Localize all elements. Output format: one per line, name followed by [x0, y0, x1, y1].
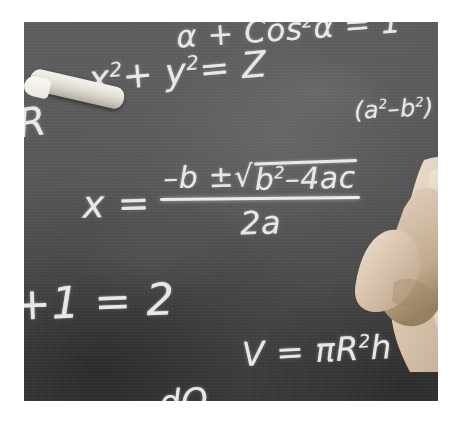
quadratic-numerator: –b ± √ b2–4ac	[159, 158, 360, 199]
equation-bottom-partial: dQ	[158, 382, 210, 401]
quadratic-denominator: 2a	[240, 206, 282, 239]
volume-tail: h	[369, 327, 392, 367]
chalkboard-photo: α + Cos2α = 1 x2+ y2= Z R (a2–b2) x = –b…	[24, 22, 438, 401]
radicand-tail: –4ac	[284, 159, 356, 196]
equation-plus-one-equals-two: +1 = 2	[24, 277, 175, 327]
quadratic-numerator-lead: –b ±	[163, 162, 234, 194]
quadratic-fraction: –b ± √ b2–4ac 2a	[159, 158, 361, 241]
equation-difference-of-squares: (a2–b2)	[353, 95, 434, 123]
volume-lhs: V = πR	[241, 329, 360, 374]
trig-exponent-1: 2	[301, 22, 313, 32]
pythag-mid: + y	[121, 50, 189, 96]
quadratic-lhs: x =	[82, 184, 151, 224]
radical-sign-icon: √	[234, 161, 254, 192]
page-root: α + Cos2α = 1 x2+ y2= Z R (a2–b2) x = –b…	[0, 0, 461, 424]
equation-quadratic-formula: x = –b ± √ b2–4ac 2a	[81, 158, 361, 243]
radicand-base: b	[254, 162, 274, 197]
quadratic-radicand: b2–4ac	[254, 158, 356, 195]
pythag-rhs: = Z	[198, 43, 269, 90]
diffsq-open: (a	[353, 96, 380, 125]
diffsq-close: )	[423, 93, 434, 121]
diffsq-mid: –b	[387, 94, 417, 123]
